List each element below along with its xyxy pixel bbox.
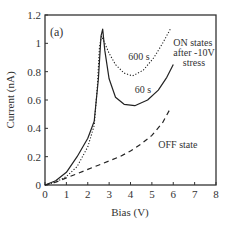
x-tick-label: 4 xyxy=(128,188,134,200)
y-tick-label: 0.6 xyxy=(27,94,41,106)
x-tick-label: 6 xyxy=(171,188,177,200)
y-tick-label: 0 xyxy=(36,179,42,191)
x-tick-label: 0 xyxy=(42,188,48,200)
x-tick-label: 8 xyxy=(213,188,219,200)
x-tick-label: 1 xyxy=(64,188,70,200)
current-vs-bias-chart: 01234567800.20.40.60.811.2 600 s60 sON s… xyxy=(0,0,227,226)
x-axis-title: Bias (V) xyxy=(111,206,149,219)
y-tick-label: 0.2 xyxy=(27,151,41,163)
annotation-label: stress xyxy=(183,57,205,68)
y-axis-title: Current (nA) xyxy=(4,71,17,128)
x-tick-label: 7 xyxy=(192,188,198,200)
annotation-label: OFF state xyxy=(158,139,198,150)
data-series xyxy=(45,28,173,185)
series-60-s xyxy=(45,29,173,185)
y-tick-label: 0.4 xyxy=(27,122,41,134)
annotations: 600 s60 sON statesafter -10VstressOFF st… xyxy=(128,37,215,150)
y-tick-label: 1.2 xyxy=(27,9,41,21)
x-tick-label: 3 xyxy=(106,188,112,200)
y-tick-label: 1 xyxy=(36,37,42,49)
x-tick-label: 5 xyxy=(149,188,155,200)
panel-label: (a) xyxy=(50,25,63,39)
series-off-state xyxy=(45,107,171,185)
annotation-label: 60 s xyxy=(135,84,152,95)
y-tick-label: 0.8 xyxy=(27,66,41,78)
annotation-label: 600 s xyxy=(128,51,150,62)
x-tick-label: 2 xyxy=(85,188,91,200)
